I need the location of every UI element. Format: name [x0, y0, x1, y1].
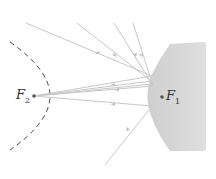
ray-arrowheads [95, 51, 143, 131]
focus-f1-label: F1 [166, 88, 180, 106]
reflected-rays [34, 76, 153, 106]
hyperbolic-reflector-diagram: F2 F1 [0, 0, 216, 179]
focus-f2-label: F2 [16, 87, 30, 105]
focus-f2-dot [32, 94, 36, 98]
focus-f1-dot [160, 95, 164, 99]
diagram-canvas [0, 0, 216, 179]
